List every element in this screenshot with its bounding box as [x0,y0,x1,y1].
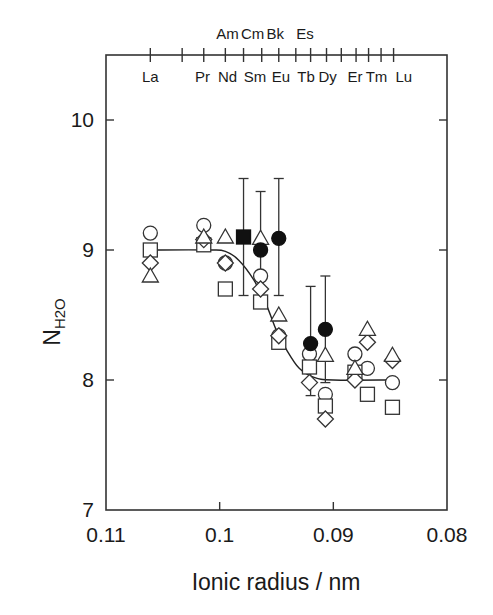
y-axis-title-subscript: H2O [51,298,68,329]
lanthanide-label: Er [347,68,362,85]
lanthanide-label: Sm [244,68,267,85]
open-circle-point [348,347,362,361]
open-triangle-point [196,229,212,243]
open-diamond-point [359,334,375,350]
lanthanide-label: Eu [272,68,290,85]
open-circle-point [143,226,157,240]
x-tick-label: 0.11 [86,523,125,546]
chart: LaPrNdSmEuTbDyErTmLuAmCmBkEs 0.110.10.09… [0,0,493,615]
open-triangle-point [271,307,287,321]
lanthanide-label: Pr [195,68,210,85]
lanthanide-label: Lu [395,68,412,85]
x-tick-label: 0.1 [205,523,234,546]
y-tick-label: 8 [82,368,94,391]
actinide-label: Am [216,25,239,42]
x-axis-title: Ionic radius / nm [192,569,361,595]
open-circle-point [385,376,399,390]
lanthanide-label: Nd [218,68,237,85]
x-tick-label: 0.08 [427,523,468,546]
filled-circle-point [254,243,268,257]
y-tick-label: 10 [71,108,94,131]
y-axis-ticks: 78910 [71,108,447,521]
y-tick-label: 9 [82,238,94,261]
open-triangle-point [384,347,400,361]
lanthanide-label: Tb [297,68,315,85]
filled-circle-point [272,231,286,245]
actinide-label: Es [296,25,314,42]
open-square-point [385,400,399,414]
x-tick-label: 0.09 [313,523,354,546]
open-triangle-point [317,347,333,361]
filled-square-point [237,230,251,244]
y-axis-title-main: N [39,329,65,346]
lanthanide-label: La [142,68,159,85]
actinide-label: Bk [267,25,285,42]
y-tick-label: 7 [82,498,94,521]
open-triangle-point [253,230,269,244]
x-axis-ticks: 0.110.10.090.08 [86,502,467,546]
open-triangle-point [217,229,233,243]
filled-circle-point [318,322,332,336]
actinide-label: Cm [241,25,264,42]
y-axis-title: NH2O [39,298,68,345]
open-diamond-point [217,255,233,271]
lanthanide-label: Tm [366,68,388,85]
lanthanide-label: Dy [318,68,337,85]
open-square-point [360,387,374,401]
open-diamond-point [301,375,317,391]
open-triangle-point [142,268,158,282]
open-triangle-point [359,321,375,335]
open-square-point [218,282,232,296]
filled-circle-point [304,337,318,351]
open-square-point [302,360,316,374]
